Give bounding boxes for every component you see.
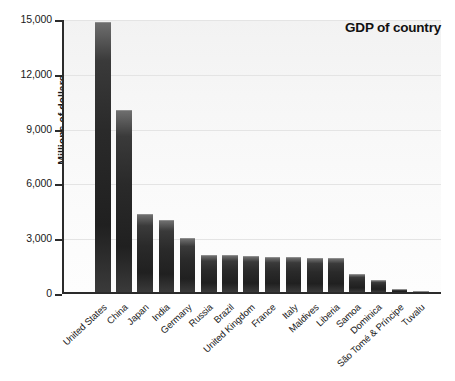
x-axis-label: Dominica	[348, 301, 384, 336]
y-axis-tick-label: 6,000	[26, 177, 52, 189]
bar	[328, 258, 344, 292]
y-axis-tick-label: 9,000	[26, 123, 52, 135]
x-axis-label: China	[104, 301, 129, 326]
y-axis-tick-label: 15,000	[20, 13, 52, 25]
x-axis-label: India	[150, 301, 172, 323]
y-axis-tick-mark	[55, 294, 62, 296]
x-axis-label: United Kingdom	[201, 301, 257, 354]
bar	[371, 280, 387, 292]
y-axis-tick-mark	[55, 20, 62, 22]
bar	[349, 274, 365, 292]
bar	[413, 291, 429, 293]
x-axis-label: United States	[60, 301, 108, 347]
gridline	[64, 75, 441, 76]
bar	[222, 255, 238, 292]
bar	[180, 238, 196, 292]
x-axis-label: Tuvalu	[399, 301, 427, 328]
bar	[265, 257, 281, 292]
chart-title: GDP of country	[345, 20, 441, 35]
plot-area	[62, 20, 441, 294]
bar	[286, 257, 302, 292]
y-axis-tick-label: 0	[46, 287, 52, 299]
x-axis-label: Brazil	[211, 301, 235, 325]
x-axis-label: Russia	[186, 301, 214, 328]
x-axis-label: Samoa	[334, 301, 363, 329]
x-axis-label: Liberia	[314, 301, 342, 328]
x-axis-label: Germany	[158, 301, 194, 335]
chart-screenshot: 03,0006,0009,00012,00015,000 Millions of…	[0, 0, 455, 381]
y-axis-tick-mark	[55, 239, 62, 241]
bar	[243, 256, 259, 292]
y-axis-tick-label: 12,000	[20, 68, 52, 80]
y-axis-tick-label: 3,000	[26, 232, 52, 244]
bar	[201, 255, 217, 292]
bar	[392, 289, 408, 292]
bar	[307, 258, 323, 292]
bar	[159, 220, 175, 292]
bar	[137, 214, 153, 292]
x-axis-label: Maldives	[286, 301, 320, 334]
bar	[116, 110, 132, 292]
x-axis-label: Japan	[125, 301, 151, 326]
x-axis-label: Italy	[279, 301, 299, 321]
bar	[95, 22, 111, 292]
x-axis-label: São Tomé & Príncipe	[334, 301, 405, 368]
y-axis: 03,0006,0009,00012,00015,000	[0, 0, 62, 381]
x-axis-label: France	[249, 301, 278, 329]
